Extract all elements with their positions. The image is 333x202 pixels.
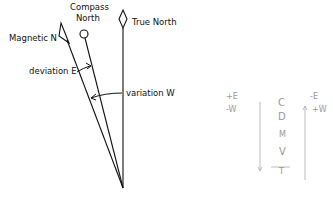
deviation-arrow-icon — [77, 63, 91, 72]
variation-arrow-icon — [91, 93, 122, 100]
note-c: C — [278, 98, 285, 108]
note-minus-w: -W — [226, 106, 236, 114]
magnetic-north-label: Magnetic N — [9, 34, 57, 43]
true-north-label: True North — [132, 18, 177, 27]
compass-north-label: Compass — [70, 3, 109, 12]
compass-north-icon — [80, 30, 123, 188]
deviation-label: deviation E — [29, 67, 77, 76]
note-v: V — [279, 147, 286, 157]
note-plus-w: +W — [312, 106, 327, 114]
compass-north-label-2: North — [76, 14, 100, 23]
variation-label: variation W — [126, 89, 175, 98]
note-t: T — [279, 168, 284, 176]
note-minus-e: -E — [310, 93, 318, 101]
note-plus-e: +E — [226, 93, 238, 101]
magnetic-north-icon — [59, 23, 123, 188]
note-d: D — [278, 112, 286, 122]
note-m: M — [279, 131, 286, 139]
true-north-icon — [119, 10, 127, 188]
